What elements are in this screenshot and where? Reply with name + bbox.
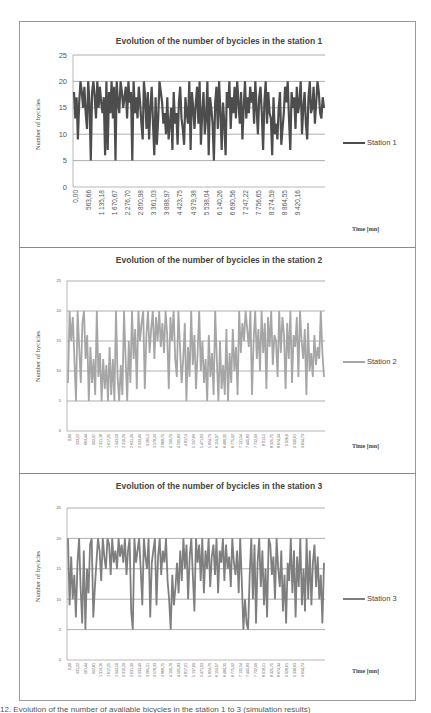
x-tick-label: 331,22 <box>76 663 80 674</box>
x-tick-label: 2 310,29 <box>122 663 126 677</box>
y-tick-label: 15 <box>57 338 62 343</box>
x-tick-label: 0,00 <box>68 434 72 441</box>
y-tick-label: 10 <box>59 130 67 139</box>
plot-area-1: 05101520250,00563,661 135,181 670,672 27… <box>59 51 325 216</box>
x-tick-label: 6 690,56 <box>229 190 236 216</box>
y-tick-label: 25 <box>57 505 62 510</box>
x-tick-label: 7 445,83 <box>246 434 250 448</box>
plot-layer: 05101520250,00563,661 135,181 670,672 27… <box>0 0 431 713</box>
y-tick-label: 5 <box>63 156 67 165</box>
x-tick-label: 6 480,35 <box>223 434 227 448</box>
y-tick-label: 15 <box>59 103 67 112</box>
x-tick-label: 3 578,33 <box>153 663 157 677</box>
x-tick-label: 5 471,03 <box>200 663 204 677</box>
plot-area-3: 05101520250,00331,22561,44992,811 313,16… <box>57 505 325 677</box>
x-tick-label: 5 824,79 <box>208 663 212 677</box>
x-tick-label: 6 159,07 <box>215 434 219 448</box>
x-tick-label: 6 775,92 <box>231 663 235 677</box>
x-tick-label: 563,66 <box>85 190 92 210</box>
series-line <box>68 311 324 401</box>
x-tick-label: 6 775,92 <box>231 434 235 448</box>
x-tick-label: 1 135,18 <box>98 190 105 216</box>
x-tick-label: 8 013,5 <box>262 434 266 446</box>
x-tick-label: 1 311,16 <box>99 434 103 448</box>
x-tick-label: 663,44 <box>84 434 88 445</box>
y-tick-label: 5 <box>59 627 62 632</box>
x-tick-label: 9 330,61 <box>293 434 297 448</box>
x-tick-label: 4 979,38 <box>190 190 197 216</box>
x-tick-label: 3 868,75 <box>161 663 165 677</box>
x-tick-label: 3 868,75 <box>161 434 165 448</box>
y-tick-label: 20 <box>59 77 67 86</box>
x-tick-label: 7 132,54 <box>239 663 243 677</box>
x-tick-label: 2 631,39 <box>130 663 134 677</box>
x-tick-label: 4 190,70 <box>169 663 173 677</box>
x-tick-label: 8 864,55 <box>281 190 288 216</box>
series-line <box>74 81 324 160</box>
x-tick-label: 1 943,50 <box>115 434 119 448</box>
x-tick-label: 2 933,49 <box>138 434 142 448</box>
y-tick-label: 25 <box>59 51 67 60</box>
y-tick-label: 0 <box>63 183 67 192</box>
x-tick-label: 7 756,65 <box>255 190 262 216</box>
x-tick-label: 1 943,50 <box>115 663 119 677</box>
y-tick-label: 20 <box>57 536 62 541</box>
x-tick-label: 4 190,79 <box>169 434 173 448</box>
x-tick-label: 1 617,25 <box>107 663 111 677</box>
y-tick-label: 20 <box>57 308 62 313</box>
x-tick-label: 9 634,73 <box>301 434 305 448</box>
x-tick-label: 992,37 <box>92 434 96 445</box>
x-tick-label: 4 817,91 <box>184 663 188 677</box>
x-tick-label: 7 445,83 <box>246 663 250 677</box>
x-tick-label: 1 313,16 <box>99 663 103 677</box>
x-tick-label: 6 140,26 <box>216 190 223 216</box>
x-tick-label: 4 505,83 <box>177 434 181 448</box>
y-tick-label: 5 <box>59 398 62 403</box>
x-tick-label: 7 247,22 <box>242 190 249 216</box>
x-tick-label: 4 423,75 <box>176 190 183 216</box>
x-tick-label: 3 265,5 <box>146 434 150 446</box>
x-tick-label: 7 131,54 <box>239 434 243 448</box>
x-tick-label: 2 310,29 <box>122 434 126 448</box>
x-tick-label: 1 617,25 <box>107 434 111 448</box>
series-line <box>68 538 324 629</box>
x-tick-label: 0,00 <box>72 190 79 203</box>
y-tick-label: 0 <box>59 657 62 662</box>
x-tick-label: 2 800,98 <box>137 190 144 216</box>
x-tick-label: 5 137,69 <box>192 663 196 677</box>
plot-area-2: 05101520250,00333,22663,44992,371 311,16… <box>57 278 325 448</box>
y-tick-label: 0 <box>59 428 62 433</box>
y-tick-label: 15 <box>57 566 62 571</box>
x-tick-label: 3 578,33 <box>153 434 157 448</box>
x-tick-label: 8 018,51 <box>262 663 266 677</box>
x-tick-label: 561,44 <box>84 663 88 674</box>
x-tick-label: 8 274,59 <box>268 190 275 216</box>
x-tick-label: 6 159,07 <box>215 663 219 677</box>
x-tick-label: 3 361,03 <box>150 190 157 216</box>
x-tick-label: 7 732,99 <box>254 663 258 677</box>
x-tick-label: 7 732,99 <box>254 434 258 448</box>
x-tick-label: 4 817,9 <box>184 434 188 446</box>
y-tick-label: 25 <box>57 278 62 283</box>
figure-caption: 12. Evolution of the number of available… <box>0 703 431 713</box>
x-tick-label: 9 338,63 <box>293 663 297 677</box>
x-tick-label: 8 325,75 <box>270 434 274 448</box>
x-tick-label: 9 026,6 <box>285 434 289 446</box>
x-tick-label: 5 471,03 <box>200 434 204 448</box>
x-tick-label: 5 824,79 <box>208 434 212 448</box>
x-tick-label: 333,22 <box>76 434 80 445</box>
x-tick-label: 8 674,34 <box>277 434 281 448</box>
x-tick-label: 4 505,83 <box>177 663 181 677</box>
x-tick-label: 6 480,35 <box>223 663 227 677</box>
x-tick-label: 5 137,69 <box>192 434 196 448</box>
x-tick-label: 5 538,04 <box>203 190 210 216</box>
x-tick-label: 8 325,75 <box>270 663 274 677</box>
x-tick-label: 9 634,73 <box>301 663 305 677</box>
x-tick-label: 2 276,70 <box>124 190 131 216</box>
x-tick-label: 2 933,49 <box>138 663 142 677</box>
x-tick-label: 8 674,34 <box>277 663 281 677</box>
x-tick-label: 0,00 <box>68 663 72 670</box>
x-tick-label: 3 265,51 <box>146 663 150 677</box>
x-tick-label: 2 631,39 <box>130 434 134 448</box>
x-tick-label: 9 028,61 <box>285 663 289 677</box>
